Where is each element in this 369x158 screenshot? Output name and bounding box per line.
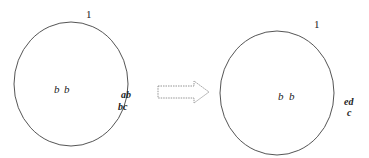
left-center-label-1: b — [54, 83, 60, 95]
right-circle — [220, 31, 334, 155]
diagram-canvas: 1 b b ab bc 1 b b ed c — [0, 0, 369, 158]
left-circle-group: 1 b b ab bc — [14, 8, 131, 146]
left-edge-label-2: bc — [118, 101, 128, 112]
right-edge-label-1: ed — [344, 96, 354, 107]
right-circle-group: 1 b b ed c — [220, 18, 354, 155]
left-center-label-2: b — [64, 83, 70, 95]
left-edge-label-1: ab — [121, 89, 131, 100]
right-center-label-2: b — [289, 90, 295, 102]
left-circle — [14, 22, 128, 146]
left-top-label: 1 — [86, 8, 92, 20]
right-top-label: 1 — [314, 18, 320, 30]
transition-arrow-icon — [158, 81, 209, 103]
right-edge-label-2: c — [347, 107, 352, 118]
right-center-label-1: b — [278, 90, 284, 102]
